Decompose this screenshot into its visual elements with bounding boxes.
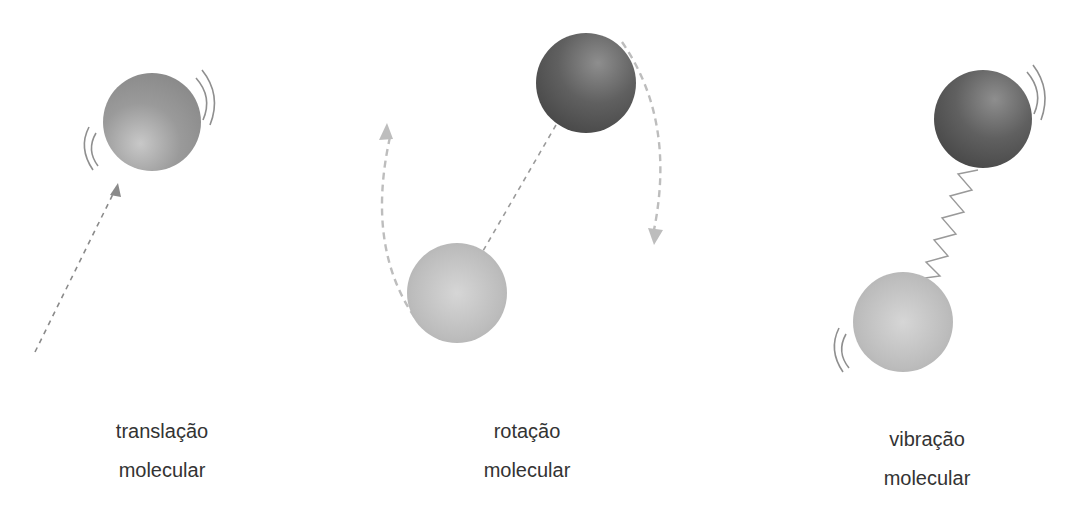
rotation-light-sphere-icon [407, 243, 507, 343]
spring-icon [925, 170, 978, 278]
rotation-label: rotação molecular [427, 412, 627, 490]
translation-arrowhead-icon [110, 183, 121, 197]
rotation-arrowhead-left-icon [379, 123, 393, 140]
rotation-label-line2: molecular [427, 451, 627, 490]
translation-label: translação molecular [62, 412, 262, 490]
vibration-light-sphere-icon [853, 272, 953, 372]
vibration-dark-sphere-icon [934, 70, 1032, 168]
rotation-panel [379, 33, 663, 343]
vibration-label: vibração molecular [827, 420, 1027, 498]
translation-label-line2: molecular [62, 451, 262, 490]
rotation-arrowhead-right-icon [648, 228, 663, 245]
bond-dashed-line [483, 125, 556, 251]
rotation-dark-sphere-icon [536, 33, 636, 133]
translation-sphere-icon [103, 73, 201, 171]
vibration-label-line1: vibração [827, 420, 1027, 459]
vibration-label-line2: molecular [827, 459, 1027, 498]
translation-label-line1: translação [62, 412, 262, 451]
rotation-label-line1: rotação [427, 412, 627, 451]
translation-dashed-arrow-icon [35, 192, 114, 352]
translation-panel [35, 70, 215, 352]
vibration-panel [834, 65, 1045, 372]
